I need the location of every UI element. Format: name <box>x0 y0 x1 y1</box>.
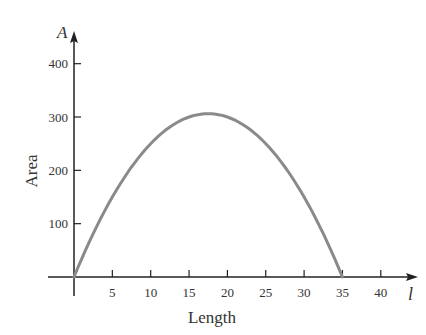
y-tick-label: 100 <box>49 216 69 231</box>
x-axis-label: Length <box>188 308 237 327</box>
x-tick-label: 5 <box>109 285 116 300</box>
area-vs-length-chart: 510152025303540100200300400 Area Length … <box>0 0 426 335</box>
x-axis-variable: l <box>408 284 413 304</box>
x-tick-label: 20 <box>221 285 234 300</box>
x-tick-label: 15 <box>183 285 196 300</box>
x-tick-label: 10 <box>144 285 157 300</box>
y-tick-label: 400 <box>49 56 69 71</box>
y-tick-label: 200 <box>49 163 69 178</box>
axes: 510152025303540100200300400 <box>48 31 418 300</box>
y-tick-label: 300 <box>49 110 69 125</box>
y-axis-label: Area <box>22 154 41 187</box>
x-tick-label: 30 <box>298 285 311 300</box>
area-curve <box>74 114 342 277</box>
x-tick-label: 40 <box>374 285 387 300</box>
x-tick-label: 35 <box>336 285 349 300</box>
x-tick-label: 25 <box>259 285 272 300</box>
y-axis-variable: A <box>56 23 68 42</box>
